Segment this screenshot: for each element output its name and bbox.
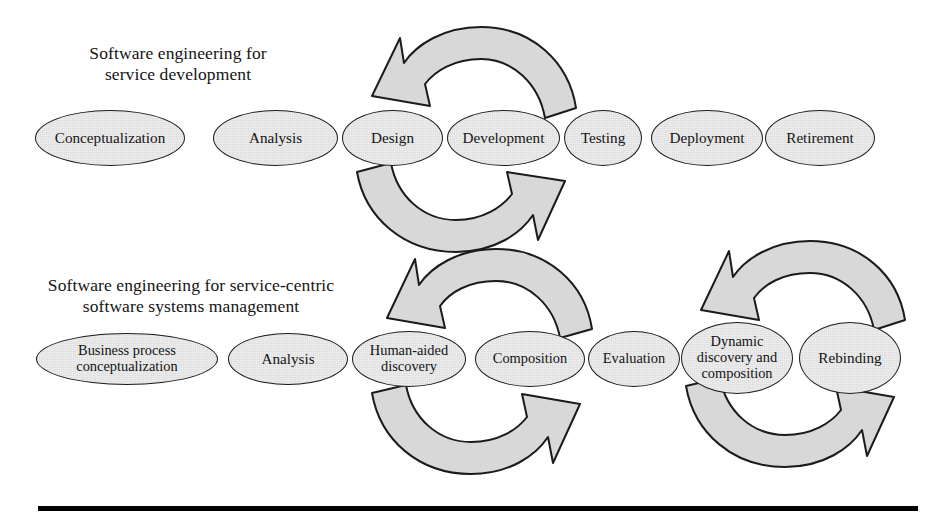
figure-canvas: Conceptualization Analysis Design Develo… — [0, 0, 939, 519]
baseline-rule — [38, 506, 918, 511]
section-title-top: Software engineering for service develop… — [42, 43, 314, 86]
section-title-bottom: Software engineering for service-centric… — [26, 275, 356, 318]
title-layer: Software engineering for service develop… — [0, 0, 939, 519]
